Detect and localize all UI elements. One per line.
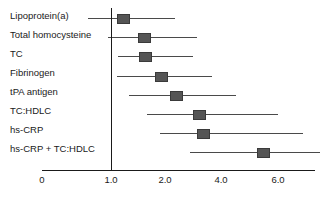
row-label: Lipoprotein(a) [10,10,69,21]
point-estimate-marker [117,14,130,24]
point-estimate-marker [170,91,183,101]
reference-line-at-1 [111,8,112,170]
confidence-interval-line [118,56,193,57]
row-label: Fibrinogen [10,67,55,78]
x-axis-tick-label: 2.0 [145,174,185,185]
confidence-interval-line [88,18,175,19]
row-label: hs-CRP + TC:HDLC [10,143,95,154]
point-estimate-marker [197,129,210,139]
point-estimate-marker [155,72,168,82]
forest-plot: Lipoprotein(a)Total homocysteineTCFibrin… [0,0,329,198]
x-axis-tick-label: 4.0 [201,174,241,185]
confidence-interval-line [160,133,303,134]
confidence-interval-line [190,152,320,153]
confidence-interval-line [147,114,278,115]
x-axis-tick-label: 0 [22,174,62,185]
x-axis-line [42,170,315,171]
x-axis-tick-label: 1.0 [91,174,131,185]
point-estimate-marker [193,110,206,120]
point-estimate-marker [138,33,151,43]
x-axis-tick-mark [111,167,112,170]
row-label: tPA antigen [10,86,58,97]
point-estimate-marker [257,148,270,158]
row-label: Total homocysteine [10,29,91,40]
row-label: TC [10,48,23,59]
x-axis-tick-label: 6.0 [258,174,298,185]
confidence-interval-line [129,95,236,96]
row-label: hs-CRP [10,124,43,135]
confidence-interval-line [108,37,197,38]
row-label: TC:HDLC [10,105,51,116]
point-estimate-marker [139,52,152,62]
